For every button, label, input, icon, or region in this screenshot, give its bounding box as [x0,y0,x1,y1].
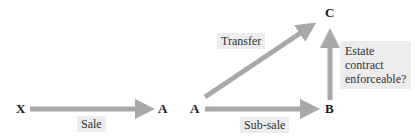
estate-label-line3: enforceable? [345,72,406,86]
node-x: X [16,102,25,116]
sale-label: Sale [77,116,106,132]
node-b: B [325,102,334,116]
estate-label-line1: Estate [345,44,406,58]
estate-contract-label: Estate contract enforceable? [340,41,411,89]
node-a-first: A [158,102,167,116]
estate-label-line2: contract [345,58,406,72]
transfer-label: Transfer [217,33,265,49]
sub-sale-label: Sub-sale [240,117,289,133]
node-a-second: A [190,102,199,116]
node-c: C [325,6,334,20]
